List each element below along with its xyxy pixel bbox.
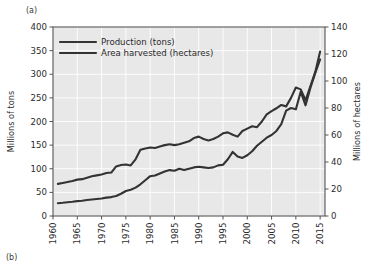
tick-label-x: 1975 bbox=[121, 223, 131, 245]
tick-label-y-left: 200 bbox=[31, 117, 47, 127]
tick-label-x: 1995 bbox=[218, 223, 228, 245]
tick-label-x: 1960 bbox=[48, 223, 58, 245]
tick-label-y-left: 0 bbox=[42, 211, 47, 221]
legend-label-area-harvested: Area harvested (hectares) bbox=[101, 48, 213, 58]
tick-label-y-right: 80 bbox=[331, 103, 342, 113]
y-axis-title-right: Millions of hectares bbox=[352, 82, 362, 161]
tick-label-y-right: 0 bbox=[331, 211, 336, 221]
tick-label-x: 2005 bbox=[267, 223, 277, 245]
tick-label-y-left: 50 bbox=[36, 187, 47, 197]
tick-label-y-left: 100 bbox=[31, 164, 47, 174]
tick-label-y-right: 40 bbox=[331, 157, 342, 167]
figure-panel-a: (a) 050100150200250300350400020406080100… bbox=[0, 0, 371, 272]
dual-axis-line-chart: 0501001502002503003504000204060801001201… bbox=[0, 0, 371, 272]
tick-label-y-left: 150 bbox=[31, 140, 47, 150]
y-axis-title-left: Millions of tons bbox=[6, 91, 16, 152]
tick-label-x: 1990 bbox=[194, 223, 204, 245]
tick-label-y-right: 140 bbox=[331, 22, 347, 32]
tick-label-y-right: 60 bbox=[331, 130, 342, 140]
tick-label-x: 1980 bbox=[145, 223, 155, 245]
tick-label-x: 1985 bbox=[170, 223, 180, 245]
tick-label-y-left: 400 bbox=[31, 22, 47, 32]
tick-label-x: 2010 bbox=[291, 223, 301, 245]
tick-label-x: 1965 bbox=[72, 223, 82, 245]
tick-label-y-left: 300 bbox=[31, 69, 47, 79]
tick-label-y-right: 20 bbox=[331, 184, 342, 194]
tick-label-x: 1970 bbox=[97, 223, 107, 245]
tick-label-y-right: 120 bbox=[331, 49, 347, 59]
tick-label-y-right: 100 bbox=[331, 76, 347, 86]
legend-label-production: Production (tons) bbox=[101, 37, 175, 47]
tick-label-y-left: 350 bbox=[31, 46, 47, 56]
tick-label-x: 2000 bbox=[242, 223, 252, 245]
tick-label-x: 2015 bbox=[315, 223, 325, 245]
panel-label-b: (b) bbox=[6, 253, 17, 262]
tick-label-y-left: 250 bbox=[31, 93, 47, 103]
